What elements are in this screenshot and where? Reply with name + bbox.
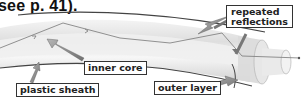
fibre-end: [238, 36, 291, 84]
label-outer-layer: outer layer: [154, 81, 221, 95]
label-repeated-reflections: repeated reflections: [226, 5, 293, 28]
label-plastic-sheath: plastic sheath: [16, 83, 99, 97]
label-inner-core: inner core: [84, 61, 147, 75]
label-repeated-reflections-line2: reflections: [231, 17, 288, 27]
